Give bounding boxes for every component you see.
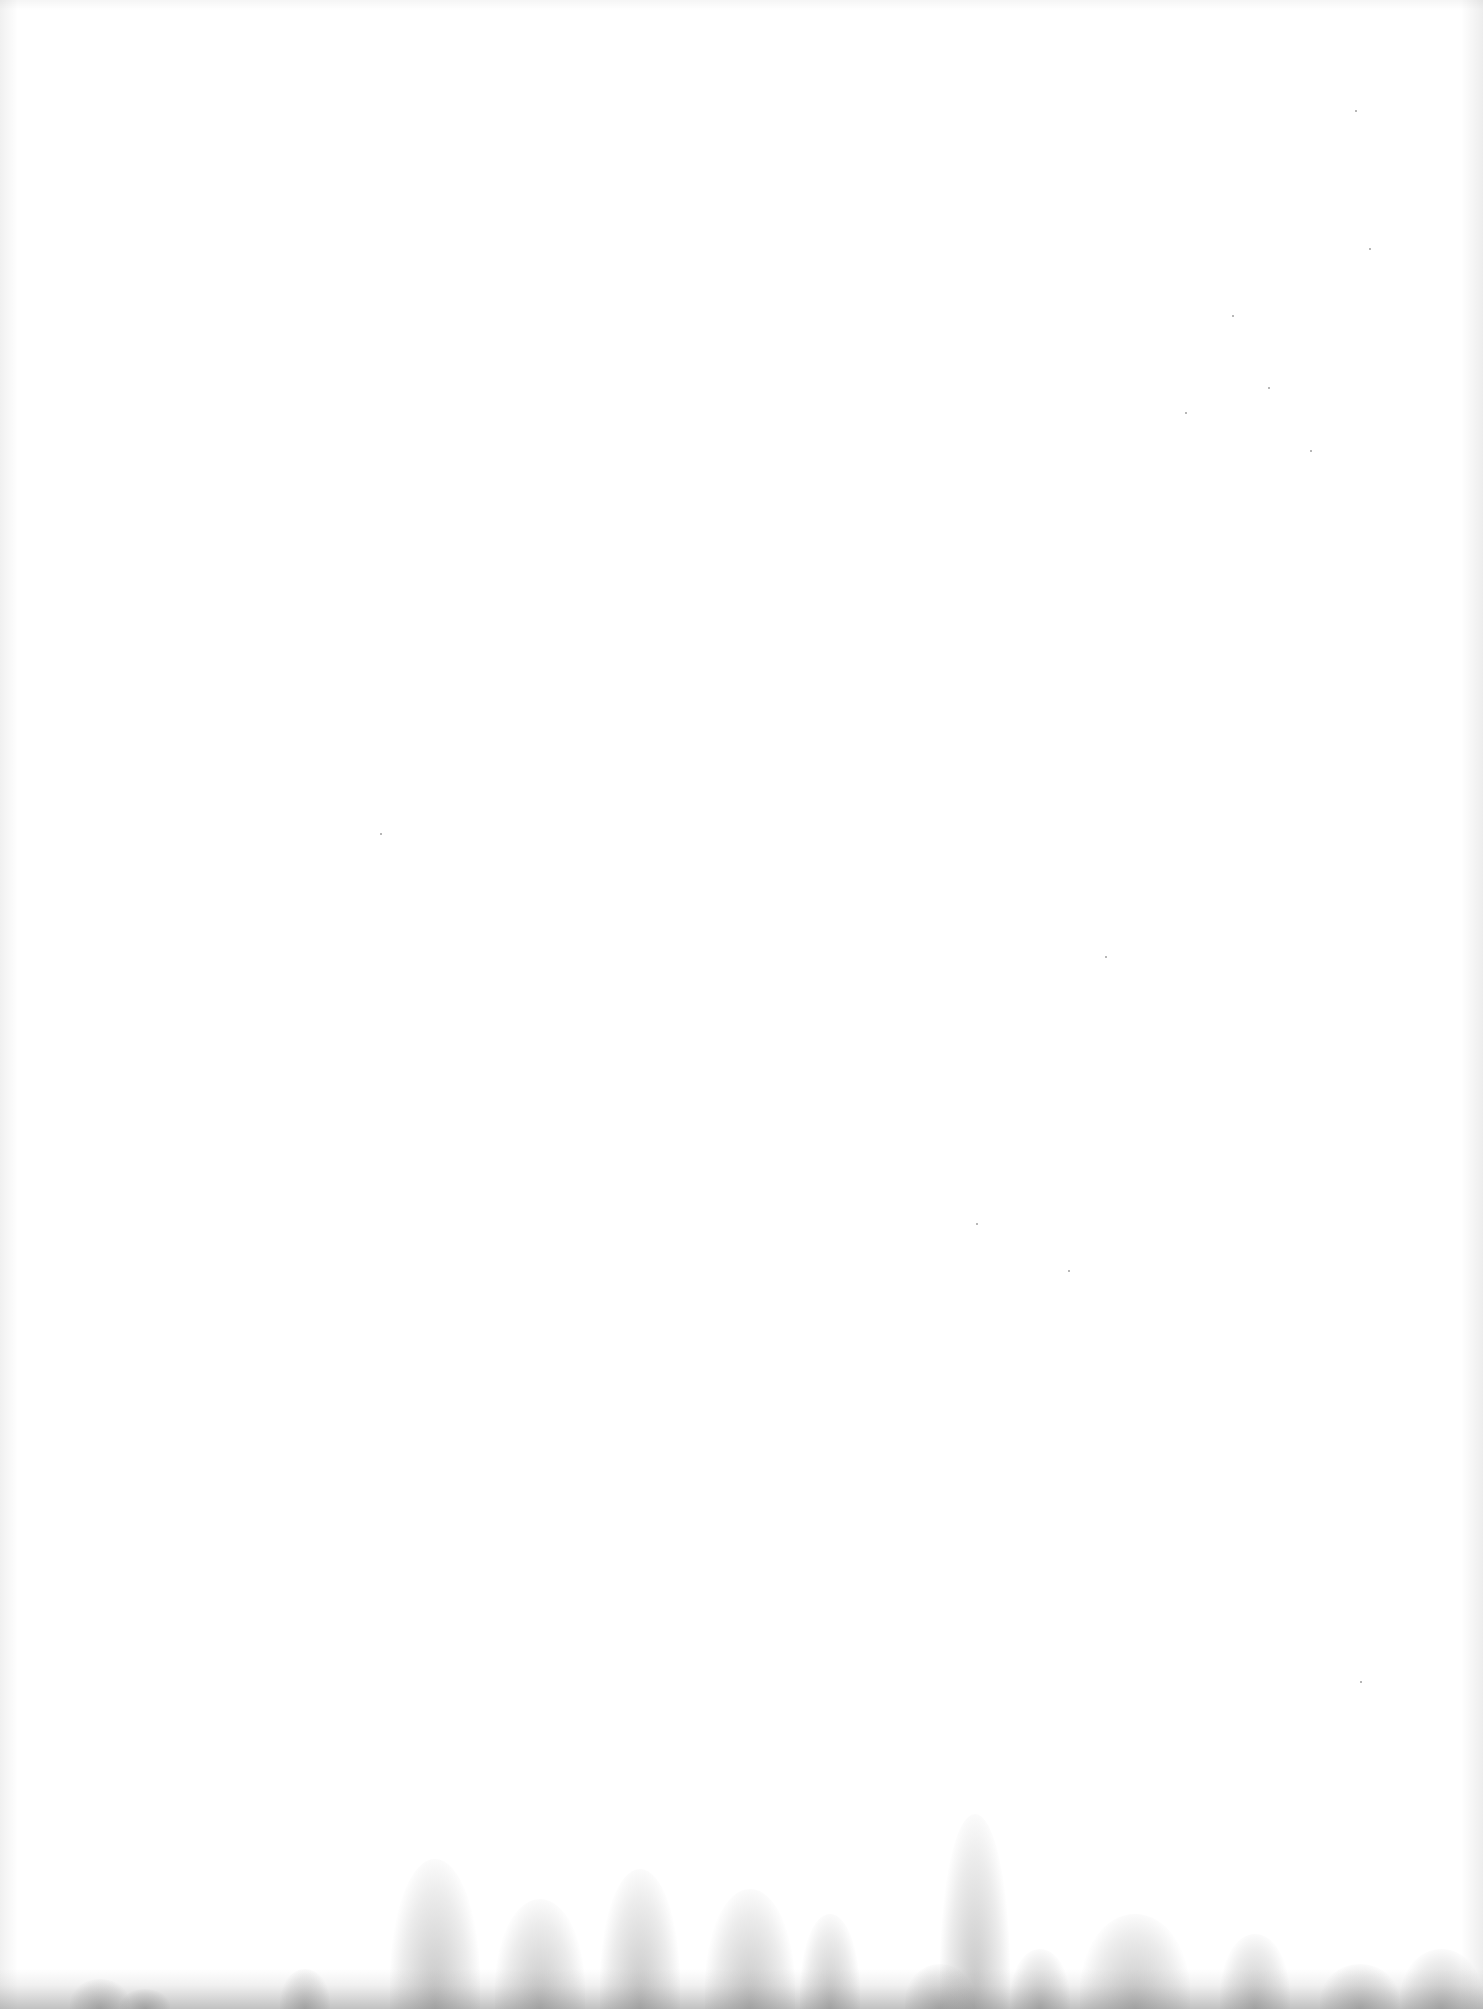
speck xyxy=(1355,110,1357,112)
speck xyxy=(1105,956,1107,958)
speck xyxy=(1268,387,1270,389)
speck xyxy=(380,833,382,835)
blank-document-page xyxy=(0,0,1483,2009)
speck xyxy=(1369,248,1371,250)
scan-edge-shadow-right xyxy=(1461,0,1483,2009)
speck xyxy=(1360,1681,1362,1683)
scan-edge-shadow-top xyxy=(0,0,1483,10)
scan-edge-shadow-left xyxy=(0,0,18,2009)
speck xyxy=(1310,450,1312,452)
bottom-stain-band xyxy=(0,1969,1483,2009)
speck xyxy=(1068,1270,1070,1272)
speck xyxy=(976,1223,978,1225)
speck xyxy=(1232,315,1234,317)
speck xyxy=(1185,412,1187,414)
